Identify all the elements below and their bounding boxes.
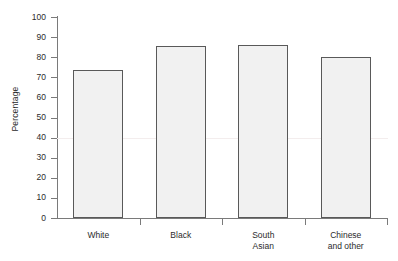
y-axis-tick-label: 80: [24, 53, 46, 62]
bar: [73, 70, 123, 218]
y-axis-tick-label: 0: [24, 214, 46, 223]
y-axis-tick-label: 90: [24, 33, 46, 42]
y-axis-label: Percentage: [10, 69, 20, 149]
y-axis-tick-label: 70: [24, 73, 46, 82]
y-axis-tick-label: 100: [24, 13, 46, 22]
x-axis-tick-mark: [387, 219, 388, 225]
plot-area: [57, 17, 387, 218]
bar: [156, 46, 206, 218]
bar-chart: Percentage 0102030405060708090100 WhiteB…: [0, 0, 398, 261]
x-axis-tick-mark: [222, 219, 223, 225]
y-axis-tick-label: 60: [24, 93, 46, 102]
y-axis-tick-label: 40: [24, 133, 46, 142]
y-axis-tick-label: 20: [24, 173, 46, 182]
x-axis-category-label: Chinese and other: [305, 230, 388, 251]
x-axis-category-label: South Asian: [222, 230, 305, 251]
x-axis-tick-mark: [305, 219, 306, 225]
y-axis-tick-label: 50: [24, 113, 46, 122]
y-axis-tick-label: 10: [24, 193, 46, 202]
y-axis-tick-label: 30: [24, 153, 46, 162]
bar: [238, 45, 288, 218]
x-axis-tick-mark: [140, 219, 141, 225]
x-axis-category-label: Black: [140, 230, 223, 241]
x-axis-category-label: White: [57, 230, 140, 241]
bar: [321, 57, 371, 218]
